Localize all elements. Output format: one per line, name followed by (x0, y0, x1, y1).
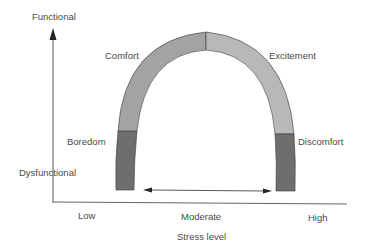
y-axis-arrowhead-icon (50, 28, 57, 40)
y-axis-top-label: Functional (32, 12, 76, 22)
discomfort-segment (275, 134, 295, 191)
moderate-range-arrow (143, 188, 272, 194)
x-tick-high: High (308, 213, 328, 223)
excitement-segment (206, 32, 294, 134)
excitement-label: Excitement (269, 51, 316, 61)
x-tick-moderate: Moderate (181, 212, 221, 222)
comfort-segment (118, 32, 206, 131)
x-axis (53, 202, 347, 204)
boredom-label: Boredom (67, 137, 106, 147)
arrow-left-icon (143, 188, 152, 193)
arrow-right-icon (263, 189, 272, 194)
x-tick-low: Low (78, 211, 95, 221)
comfort-label: Comfort (105, 51, 139, 61)
discomfort-label: Discomfort (298, 137, 343, 147)
x-axis-title: Stress level (177, 232, 226, 242)
boredom-segment (116, 131, 137, 190)
y-axis-bottom-label: Dysfunctional (19, 168, 76, 178)
